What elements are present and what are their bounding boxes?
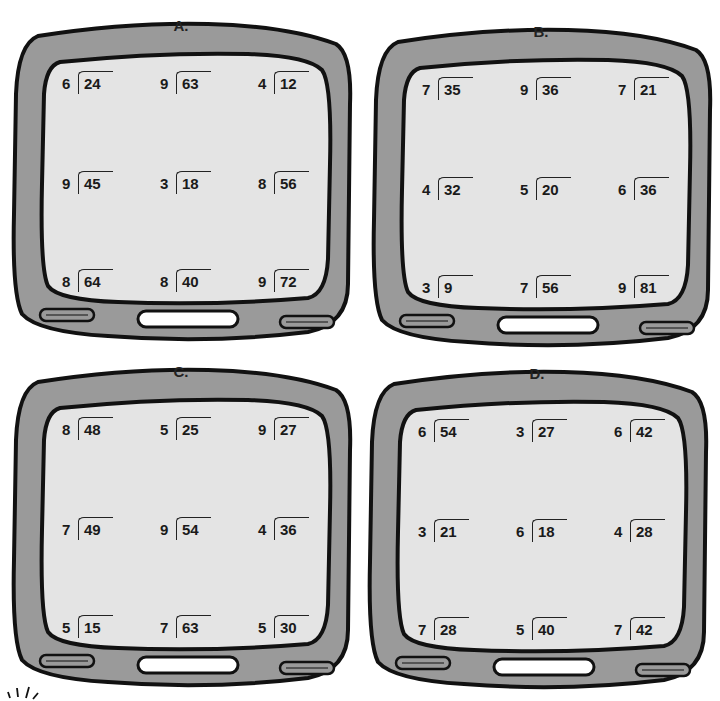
dividend: 21 [440, 523, 457, 540]
divisor: 4 [422, 181, 430, 198]
divisor: 6 [62, 75, 70, 92]
divisor: 7 [62, 521, 70, 538]
panel-label: B. [368, 23, 714, 40]
divisor: 5 [160, 421, 168, 438]
dividend: 64 [84, 273, 101, 290]
division-problem: 321 [412, 517, 502, 547]
divisor: 6 [618, 181, 626, 198]
dividend: 30 [280, 619, 297, 636]
dividend: 48 [84, 421, 101, 438]
division-problem: 864 [56, 267, 146, 297]
division-problem: 972 [252, 267, 342, 297]
division-problem: 618 [510, 517, 600, 547]
dividend: 9 [444, 279, 452, 296]
dividend: 40 [538, 621, 555, 638]
panel-label: C. [8, 363, 354, 380]
dividend: 72 [280, 273, 297, 290]
dividend: 42 [636, 621, 653, 638]
dividend: 63 [182, 619, 199, 636]
divisor: 3 [418, 523, 426, 540]
dividend: 25 [182, 421, 199, 438]
division-problem: 636 [612, 175, 702, 205]
dividend: 15 [84, 619, 101, 636]
dividend: 28 [440, 621, 457, 638]
divisor: 5 [516, 621, 524, 638]
division-problem: 848 [56, 415, 146, 445]
division-problem: 432 [416, 175, 506, 205]
divisor: 7 [614, 621, 622, 638]
division-problem: 520 [514, 175, 604, 205]
dividend: 49 [84, 521, 101, 538]
division-problem: 39 [416, 273, 506, 303]
division-problem: 728 [412, 615, 502, 645]
dividend: 40 [182, 273, 199, 290]
problem-grid: 624963412945318856864840972 [56, 69, 316, 289]
division-problem: 936 [514, 75, 604, 105]
division-problem: 530 [252, 613, 342, 643]
divisor: 4 [614, 523, 622, 540]
divisor: 5 [258, 619, 266, 636]
dividend: 12 [280, 75, 297, 92]
division-problem: 981 [612, 273, 702, 303]
dividend: 36 [542, 81, 559, 98]
division-problem: 963 [154, 69, 244, 99]
division-problem: 856 [252, 169, 342, 199]
dividend: 81 [640, 279, 657, 296]
dividend: 35 [444, 81, 461, 98]
dividend: 32 [444, 181, 461, 198]
divisor: 8 [62, 421, 70, 438]
panel-label: D. [364, 365, 710, 382]
divisor: 9 [62, 175, 70, 192]
division-problem: 840 [154, 267, 244, 297]
divisor: 4 [258, 75, 266, 92]
division-problem: 412 [252, 69, 342, 99]
problem-grid: 73593672143252063639756981 [416, 75, 676, 295]
dividend: 63 [182, 75, 199, 92]
divisor: 4 [258, 521, 266, 538]
sparkle-decoration-icon [6, 684, 46, 701]
divisor: 3 [422, 279, 430, 296]
division-problem: 756 [514, 273, 604, 303]
divisor: 7 [418, 621, 426, 638]
divisor: 7 [160, 619, 168, 636]
dividend: 21 [640, 81, 657, 98]
problem-grid: 848525927749954436515763530 [56, 415, 316, 635]
divisor: 8 [160, 273, 168, 290]
division-problem: 654 [412, 417, 502, 447]
divisor: 9 [520, 81, 528, 98]
divisor: 8 [62, 273, 70, 290]
division-problem: 763 [154, 613, 244, 643]
divisor: 7 [618, 81, 626, 98]
divisor: 9 [618, 279, 626, 296]
division-problem: 428 [608, 517, 698, 547]
panel-label: A. [8, 17, 354, 34]
division-problem: 742 [608, 615, 698, 645]
divisor: 9 [160, 521, 168, 538]
division-problem: 642 [608, 417, 698, 447]
divisor: 9 [258, 421, 266, 438]
division-problem: 954 [154, 515, 244, 545]
tv-panel-c: C. 848525927749954436515763530 [8, 360, 354, 688]
division-problem: 525 [154, 415, 244, 445]
dividend: 28 [636, 523, 653, 540]
dividend: 45 [84, 175, 101, 192]
dividend: 54 [182, 521, 199, 538]
dividend: 27 [280, 421, 297, 438]
division-problem: 436 [252, 515, 342, 545]
tv-panel-d: D. 654327642321618428728540742 [364, 362, 710, 690]
divisor: 9 [258, 273, 266, 290]
tv-panel-b: B. 73593672143252063639756981 [368, 20, 714, 348]
division-problem: 927 [252, 415, 342, 445]
dividend: 36 [640, 181, 657, 198]
divisor: 3 [516, 423, 524, 440]
dividend: 36 [280, 521, 297, 538]
problem-grid: 654327642321618428728540742 [412, 417, 672, 637]
divisor: 3 [160, 175, 168, 192]
divisor: 7 [520, 279, 528, 296]
dividend: 27 [538, 423, 555, 440]
divisor: 6 [614, 423, 622, 440]
division-problem: 945 [56, 169, 146, 199]
dividend: 42 [636, 423, 653, 440]
divisor: 6 [516, 523, 524, 540]
dividend: 56 [542, 279, 559, 296]
